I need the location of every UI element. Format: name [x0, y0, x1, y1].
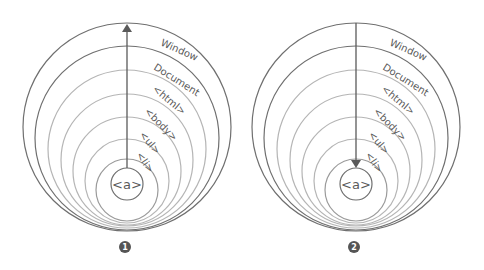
layer-label-window: Window	[159, 37, 200, 63]
target-label: <a>	[341, 177, 371, 192]
diagram-bubbling: <a> Window Document <html> <body> <ul> <…	[23, 23, 231, 253]
event-flow-diagrams: <a> Window Document <html> <body> <ul> <…	[0, 0, 484, 270]
svg-text:1: 1	[122, 243, 128, 252]
diagram-number-badge: 2	[348, 241, 360, 253]
layer-label-window: Window	[388, 37, 429, 63]
diagram-capturing: <a> Window Document <html> <body> <ul> <…	[252, 23, 460, 253]
target-label: <a>	[112, 177, 142, 192]
diagram-number-badge: 1	[119, 241, 131, 253]
svg-text:2: 2	[351, 243, 357, 252]
